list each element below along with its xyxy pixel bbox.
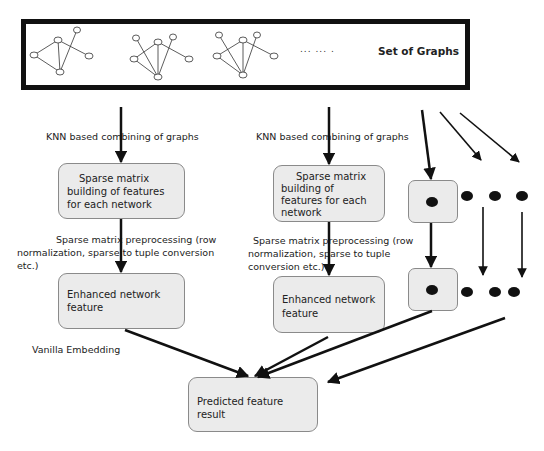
right-node-box-2 [408, 268, 458, 311]
box-line: Enhanced network [282, 293, 375, 306]
arrow-right-diag-2 [460, 113, 519, 162]
node-dot [508, 287, 520, 297]
arrow-left-to-output [125, 330, 248, 376]
banner-title: Set of Graphs [378, 45, 459, 57]
left-preprocess-label-1: Sparse matrix preprocessing (row [56, 233, 216, 246]
box-line: Enhanced network [67, 288, 160, 301]
more-graphs-ellipsis: ... ... . [300, 44, 335, 54]
middle-enhanced-feature-box: Enhanced network feature [273, 276, 385, 333]
box-line: feature [67, 301, 103, 314]
middle-preprocess-label-1: Sparse matrix preprocessing (row [253, 234, 413, 247]
vanilla-embedding-label: Vanilla Embedding [32, 343, 120, 356]
box-line: result [197, 408, 225, 421]
box-line: network [281, 206, 322, 219]
node-dot [461, 287, 473, 297]
middle-preprocess-label-3: conversion etc.) [248, 260, 324, 273]
left-enhanced-feature-box: Enhanced network feature [58, 273, 185, 329]
left-preprocess-label-2: normalization, sparse to tuple conversio… [17, 246, 214, 259]
left-preprocess-label-3: etc.) [17, 259, 39, 272]
box-line: Predicted feature [197, 395, 283, 408]
box-line: for each network [67, 198, 152, 211]
middle-preprocess-label-2: normalization, sparse to tuple [248, 247, 390, 260]
left-knn-label: KNN based combining of graphs [46, 130, 199, 143]
middle-sparse-matrix-box: Sparse matrix building of features for e… [273, 165, 385, 222]
predicted-feature-box: Predicted feature result [188, 377, 318, 432]
arrow-right-diag-1 [440, 112, 481, 160]
left-sparse-matrix-box: Sparse matrix building of features for e… [58, 163, 185, 219]
box-line: feature [282, 307, 318, 320]
arrow-middle-to-output [255, 337, 328, 376]
middle-knn-label: KNN based combining of graphs [256, 130, 409, 143]
node-dot [516, 191, 528, 201]
node-dot [489, 191, 501, 201]
box-line: building of features [67, 185, 164, 198]
node-dot [461, 191, 473, 201]
node-dot [489, 287, 501, 297]
box-line: Sparse matrix [79, 172, 149, 185]
arrow-right-1 [422, 110, 431, 179]
right-node-box-1 [408, 180, 458, 223]
